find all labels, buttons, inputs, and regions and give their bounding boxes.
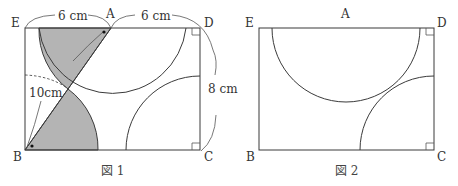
dim-arc-ea bbox=[25, 15, 55, 28]
label-d-2: D bbox=[437, 16, 447, 30]
label-e-2: E bbox=[245, 16, 254, 30]
label-c: C bbox=[204, 150, 213, 164]
figure-1: E A D B C 6 cm 6 cm 8 cm 10cm 図 1 bbox=[11, 7, 238, 178]
dim-label-dc: 8 cm bbox=[208, 82, 238, 96]
angle-dot-a bbox=[102, 30, 105, 33]
label-c-2: C bbox=[437, 150, 446, 164]
label-a-2: A bbox=[340, 7, 350, 21]
dim-label-ea: 6 cm bbox=[58, 9, 88, 23]
dim-label-ad: 6 cm bbox=[141, 9, 171, 23]
right-angle-c bbox=[192, 143, 200, 150]
label-d: D bbox=[204, 16, 214, 30]
diagram-canvas: E A D B C 6 cm 6 cm 8 cm 10cm 図 1 E A D … bbox=[0, 0, 458, 186]
dim-label-ba: 10cm bbox=[29, 86, 63, 100]
quarter-circle-c bbox=[126, 76, 200, 150]
angle-dot-b bbox=[30, 144, 33, 147]
semicircle-a-2 bbox=[272, 28, 420, 102]
caption-figure-1: 図 1 bbox=[101, 164, 124, 178]
dim-arc-dc bbox=[213, 50, 216, 75]
figure-2: E A D B C 図 2 bbox=[245, 7, 447, 178]
label-a: A bbox=[105, 7, 115, 21]
rectangle-ebcd-2 bbox=[259, 28, 434, 150]
label-e: E bbox=[11, 16, 20, 30]
label-b-2: B bbox=[246, 150, 255, 164]
label-b: B bbox=[13, 150, 22, 164]
right-angle-c-2 bbox=[426, 143, 434, 150]
right-angle-d bbox=[192, 28, 200, 35]
caption-figure-2: 図 2 bbox=[335, 164, 358, 178]
quarter-circle-c-2 bbox=[360, 76, 434, 150]
right-angle-d-2 bbox=[426, 28, 434, 35]
dim-arc-dc-low bbox=[201, 115, 216, 151]
